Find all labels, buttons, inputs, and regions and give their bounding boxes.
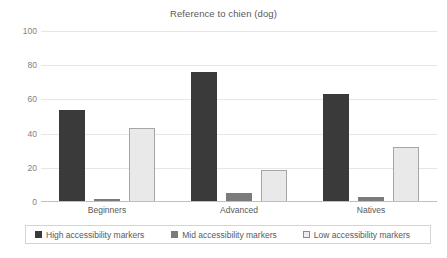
legend-item-high: High accessibility markers (35, 230, 144, 240)
bar-natives-high (323, 94, 349, 202)
x-axis-label-natives: Natives (305, 205, 437, 215)
x-axis-label-advanced: Advanced (173, 205, 305, 215)
chart-legend: High accessibility markers Mid accessibi… (25, 225, 431, 244)
chart-title: Reference to chien (dog) (0, 8, 447, 19)
y-axis-tick-60: 60 (3, 94, 37, 104)
bar-chart: Reference to chien (dog) 100 80 60 40 20… (0, 0, 447, 258)
legend-item-low: Low accessibility markers (303, 230, 410, 240)
y-axis-tick-100: 100 (3, 26, 37, 36)
y-axis-tick-80: 80 (3, 60, 37, 70)
bar-group-advanced (173, 31, 305, 202)
legend-item-mid: Mid accessibility markers (171, 230, 276, 240)
bar-beginners-low (129, 128, 155, 202)
legend-swatch-low-icon (303, 231, 310, 238)
bar-advanced-low (261, 170, 287, 202)
legend-label-low: Low accessibility markers (314, 230, 410, 240)
y-axis-tick-20: 20 (3, 163, 37, 173)
x-axis-label-beginners: Beginners (41, 205, 173, 215)
legend-label-high: High accessibility markers (46, 230, 144, 240)
y-axis-tick-40: 40 (3, 129, 37, 139)
bar-group-natives (305, 31, 437, 202)
y-axis-tick-0: 0 (3, 197, 37, 207)
legend-swatch-mid-icon (171, 231, 178, 238)
bar-beginners-high (59, 110, 85, 202)
legend-label-mid: Mid accessibility markers (182, 230, 276, 240)
legend-swatch-high-icon (35, 231, 42, 238)
bar-natives-low (393, 147, 419, 202)
plot-area (41, 31, 437, 202)
bar-advanced-high (191, 72, 217, 202)
bar-group-beginners (41, 31, 173, 202)
y-axis: 100 80 60 40 20 0 (0, 31, 37, 202)
x-axis-line (41, 201, 437, 202)
